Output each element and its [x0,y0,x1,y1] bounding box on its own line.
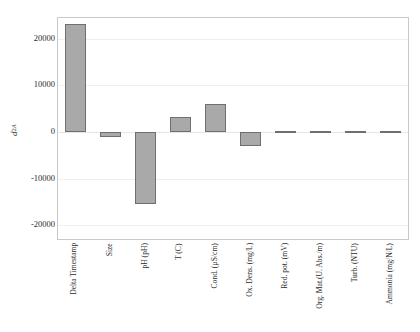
x-tick-label: T (C) [162,243,197,329]
x-axis-tick-labels: Delta TimestampSizepH (pH)T (C)Cond. (µS… [57,243,409,331]
x-tick-label-text: Ox. Dens. (mg/L) [246,243,254,297]
x-tick-label-text: Cond. (µS/cm) [211,243,219,288]
bar [275,131,297,133]
x-tick-label-text: Size [106,243,114,256]
x-tick-label: Size [92,243,127,329]
bar [65,24,87,132]
bar [135,132,157,204]
bar [100,132,122,137]
bar [205,104,227,132]
x-tick-label-text: Org. Mat.(U. Abs./m) [316,243,324,309]
y-tick-label--10000: -10000 [0,174,55,183]
bar-chart-figure: d2A 20000100000-10000-20000 Delta Timest… [0,0,420,332]
x-tick-label-text: Delta Timestamp [71,243,79,295]
x-tick-label: Delta Timestamp [57,243,92,329]
x-tick-label: Red. pot. (mV) [267,243,302,329]
x-tick-label: Ox. Dens. (mg/L) [232,243,267,329]
x-tick-label-text: Red. pot. (mV) [281,243,289,289]
x-tick-label-text: pH (pH) [141,243,149,269]
x-tick-label: Ammonia (mg/N/L) [372,243,407,329]
x-tick-label-text: T (C) [176,243,184,260]
x-tick-label-text: Turb. (NTU) [351,243,359,282]
bar [310,131,332,133]
y-tick-label-10000: 10000 [0,80,55,89]
bar [345,131,367,133]
x-tick-label: Org. Mat.(U. Abs./m) [302,243,337,329]
bar [170,117,192,132]
y-tick-label-20000: 20000 [0,34,55,43]
bar [240,132,262,146]
bar-series [58,18,408,239]
y-tick-label-0: 0 [0,127,55,136]
plot-area [57,17,409,240]
y-tick-label--20000: -20000 [0,220,55,229]
x-tick-label-text: Ammonia (mg/N/L) [386,243,394,304]
x-tick-label: pH (pH) [127,243,162,329]
x-tick-label: Turb. (NTU) [337,243,372,329]
bar [380,131,402,133]
x-tick-label: Cond. (µS/cm) [197,243,232,329]
